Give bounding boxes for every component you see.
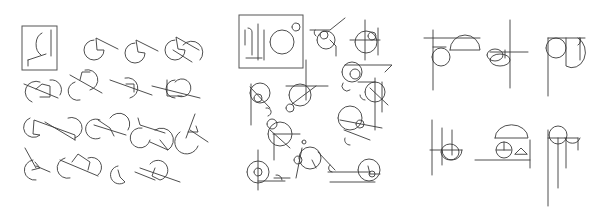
background xyxy=(0,0,601,208)
figure-canvas xyxy=(0,0,601,208)
sketch-figure xyxy=(0,0,601,208)
